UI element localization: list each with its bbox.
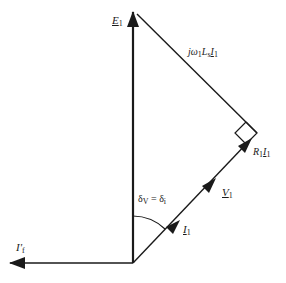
label-r1i1: R1I1: [253, 146, 270, 161]
label-e1-sub: 1: [119, 19, 123, 28]
label-angle: δV = δi: [138, 193, 166, 208]
label-i-sub: 1: [214, 50, 218, 59]
label-v1-main: V: [222, 186, 229, 198]
angle-arc: [133, 216, 165, 229]
right-angle-marker: [235, 122, 246, 144]
v1-arrowhead-icon: [202, 178, 216, 193]
label-e1: E1: [112, 14, 123, 30]
label-e1-main: E: [112, 14, 119, 26]
label-if-sub: f: [22, 246, 25, 255]
label-r1i1-i-sub: 1: [266, 150, 270, 159]
label-v1-sub: 1: [229, 191, 233, 200]
jwlsi1-phasor-line: [137, 14, 257, 133]
i1-arrowhead-icon: [166, 220, 180, 234]
label-i1-sub: 1: [187, 228, 191, 237]
phasor-diagram-svg: [0, 0, 286, 283]
angle-eq: =: [149, 193, 160, 204]
label-jw: jω: [188, 46, 198, 57]
label-jw1lsi1: jω1LsI1: [188, 46, 218, 61]
label-i1: I1: [183, 223, 191, 239]
angle-sub-i: i: [164, 197, 166, 206]
label-v1: V1: [222, 186, 233, 202]
phasor-diagram: E1 jω1LsI1 R1I1 V1 δV = δi I1 I'f: [0, 0, 286, 283]
label-if: I'f: [16, 241, 25, 257]
